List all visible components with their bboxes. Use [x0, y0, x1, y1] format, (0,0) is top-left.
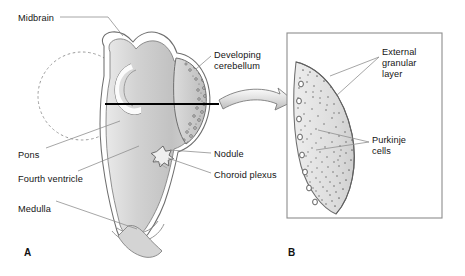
label-developing-cerebellum-line2: cerebellum: [214, 61, 260, 72]
magnification-arrow: [219, 88, 294, 110]
panel-letter-a: A: [24, 247, 31, 258]
label-developing-cerebellum-line1: Developing: [214, 50, 261, 61]
label-purkinje-cells-line2: cells: [372, 146, 391, 157]
label-external-granular-layer-line3: layer: [382, 69, 402, 80]
panel-a-artwork: [38, 17, 219, 257]
label-medulla: Medulla: [18, 204, 51, 215]
label-external-granular-layer-line2: granular: [382, 58, 417, 69]
panel-letter-b: B: [288, 247, 295, 258]
label-pons: Pons: [18, 150, 39, 161]
label-midbrain: Midbrain: [18, 13, 54, 24]
cerebellum-development-figure: Midbrain Pons Fourth ventricle Medulla D…: [0, 0, 465, 276]
label-external-granular-layer-line1: External: [382, 47, 417, 58]
arrow-body: [219, 88, 294, 110]
panel-b-artwork: [287, 33, 442, 218]
medulla-cut-surface: [118, 225, 162, 257]
label-nodule: Nodule: [214, 149, 244, 160]
label-fourth-ventricle: Fourth ventricle: [18, 174, 83, 185]
label-purkinje-cells-line1: Purkinje: [372, 135, 406, 146]
label-choroid-plexus: Choroid plexus: [214, 170, 277, 181]
